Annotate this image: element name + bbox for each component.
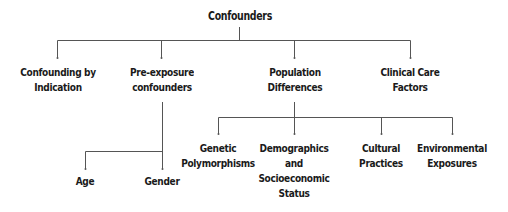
confounders-tree-diagram: Confounders Confounding by Indication Pr…	[0, 0, 508, 212]
node-label-line: Cultural	[359, 141, 403, 156]
node-population-differences: Population Differences	[262, 65, 329, 95]
node-demographics-socioeconomic-status: Demographics and Socioeconomic Status	[251, 141, 338, 201]
node-label-line: Confounding by	[20, 65, 96, 80]
node-confounding-by-indication: Confounding by Indication	[12, 65, 104, 95]
node-gender: Gender	[141, 174, 184, 189]
node-label-line: Genetic	[181, 141, 255, 156]
node-age: Age	[74, 174, 97, 189]
node-genetic-polymorphisms: Genetic Polymorphisms	[173, 141, 263, 171]
node-label-line: Environmental	[417, 141, 487, 156]
node-label-line: Socioeconomic	[258, 171, 329, 186]
node-label-line: confounders	[130, 80, 194, 95]
node-cultural-practices: Cultural Practices	[354, 141, 407, 171]
node-label-line: Practices	[359, 156, 403, 171]
node-label-line: Exposures	[417, 156, 487, 171]
node-clinical-care-factors: Clinical Care Factors	[374, 65, 446, 95]
node-confounders: Confounders	[201, 9, 279, 24]
node-label-line: Status	[258, 186, 329, 201]
node-label-line: Indication	[20, 80, 96, 95]
node-label-line: Demographics	[258, 141, 329, 156]
node-label-line: Pre-exposure	[130, 65, 194, 80]
node-pre-exposure-confounders: Pre-exposure confounders	[123, 65, 201, 95]
node-label-line: Age	[76, 174, 95, 189]
node-label-line: and	[258, 156, 329, 171]
node-label-line: Clinical Care	[380, 65, 439, 80]
node-label-line: Factors	[380, 80, 439, 95]
node-label-line: Differences	[268, 80, 323, 95]
node-environmental-exposures: Environmental Exposures	[409, 141, 494, 171]
node-label: Confounders	[208, 9, 272, 24]
node-label-line: Population	[268, 65, 323, 80]
node-label-line: Gender	[144, 174, 179, 189]
node-label-line: Polymorphisms	[181, 156, 255, 171]
